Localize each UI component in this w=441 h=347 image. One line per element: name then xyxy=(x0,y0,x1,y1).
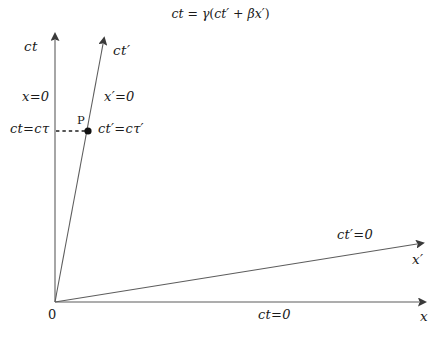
x-axis-label: x xyxy=(420,310,428,324)
x-equals-zero-label: x=0 xyxy=(22,90,49,103)
x-prime-equals-zero-label: x′=0 xyxy=(104,90,135,103)
origin-label: 0 xyxy=(48,308,56,321)
ct-prime-axis-line xyxy=(55,44,103,302)
x-prime-axis-label: x′ xyxy=(412,253,424,267)
ct-prime-equals-ctau-prime-label: ct′=cτ′ xyxy=(98,122,144,135)
ct-prime-equals-zero-label: ct′=0 xyxy=(337,228,373,241)
ct-equals-ctau-label: ct=cτ xyxy=(10,122,49,135)
ct-prime-axis-label: ct′ xyxy=(113,44,131,58)
minkowski-diagram-figure: ct = γ(ct′ + βx′) ct ct′ x=0 x′=0 ct=cτ … xyxy=(0,0,441,347)
ct-axis-label: ct xyxy=(24,40,38,54)
diagram-canvas xyxy=(0,0,441,347)
event-point-label: P xyxy=(77,115,85,127)
event-point-marker xyxy=(84,127,91,134)
ct-equals-zero-label: ct=0 xyxy=(258,308,291,321)
x-prime-axis-line xyxy=(55,244,417,302)
